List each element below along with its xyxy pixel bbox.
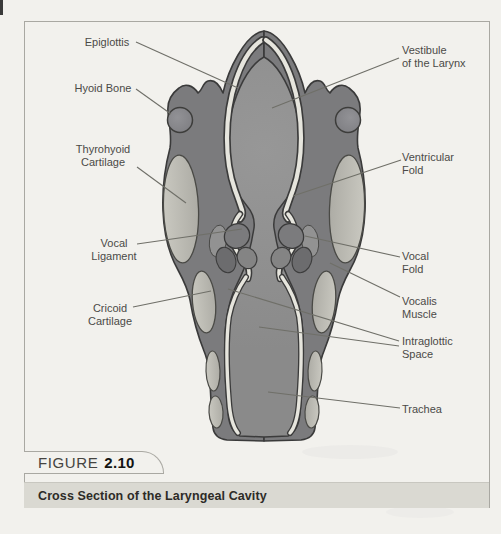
label-vestibule-of-the-larynx: Vestibule of the Larynx <box>402 44 466 70</box>
leader-hyoid-bone <box>136 89 171 114</box>
label-epiglottis: Epiglottis <box>85 36 130 49</box>
figure-number-tab: FIGURE 2.10 <box>24 451 164 474</box>
leader-epiglottis <box>136 42 238 88</box>
label-ventricular-fold: Ventricular Fold <box>402 151 454 177</box>
label-vocal-ligament: Vocal Ligament <box>91 237 136 263</box>
label-vocal-fold: Vocal Fold <box>402 250 429 276</box>
figure-word: FIGURE <box>38 454 98 471</box>
label-intraglottic-space: Intraglottic Space <box>402 335 453 361</box>
label-thyrohyoid-cartilage: Thyrohyoid Cartilage <box>76 143 130 169</box>
figure-caption: Cross Section of the Laryngeal Cavity <box>38 489 267 503</box>
label-trachea: Trachea <box>402 403 442 416</box>
figure-number: 2.10 <box>104 454 134 471</box>
label-cricoid-cartilage: Cricoid Cartilage <box>88 302 132 328</box>
textbook-figure-page: Epiglottis Hyoid Bone Thyrohyoid Cartila… <box>0 0 501 534</box>
label-hyoid-bone: Hyoid Bone <box>75 82 132 95</box>
figure-caption-band: Cross Section of the Laryngeal Cavity <box>24 482 489 508</box>
label-vocalis-muscle: Vocalis Muscle <box>402 295 437 321</box>
